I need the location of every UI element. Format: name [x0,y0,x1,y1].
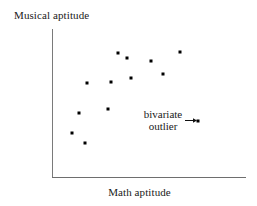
data-point [179,51,182,54]
data-point [126,57,129,60]
data-point [110,81,113,84]
data-point [78,112,81,115]
data-point [71,132,74,135]
annotation-line-2: outlier [138,121,188,133]
plot-area [0,0,257,206]
x-axis-label: Math aptitude [22,186,257,198]
data-point [130,77,133,80]
scatterplot-figure: Musical aptitude bivariate outlier Math … [0,0,257,206]
data-point [84,142,87,145]
annotation-line-1: bivariate [138,109,188,121]
outlier-annotation: bivariate outlier [138,109,188,132]
data-point [150,60,153,63]
data-point [86,82,89,85]
data-point [162,73,165,76]
data-point [107,108,110,111]
arrow-right-icon [185,116,197,125]
data-point [117,52,120,55]
